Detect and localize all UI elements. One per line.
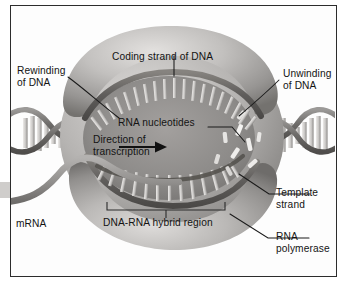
label-dna-rna-hybrid-region: DNA-RNA hybrid region	[103, 217, 213, 229]
label-coding-strand-of-dna: Coding strand of DNA	[112, 51, 213, 63]
label-rna-nucleotides: RNA nucleotides	[118, 117, 195, 129]
label-unwinding-of-dna: Unwinding of DNA	[283, 68, 331, 91]
figure-stage: Rewinding of DNA Unwinding of DNA Coding…	[0, 0, 346, 285]
label-direction-of-transcription: Direction of transcription	[93, 134, 150, 157]
label-rewinding-of-dna: Rewinding of DNA	[17, 65, 65, 88]
label-rna-polymerase: RNA polymerase	[276, 231, 330, 254]
label-mrna: mRNA	[16, 218, 46, 230]
label-template-strand: Template strand	[276, 187, 318, 210]
